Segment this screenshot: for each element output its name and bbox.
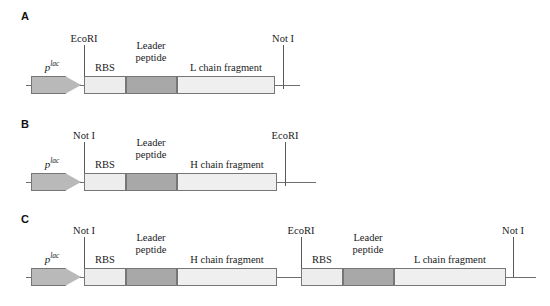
- segment-label-leader-peptide-2: Leader peptide: [353, 232, 384, 255]
- segment-label-leader-peptide: Leader peptide: [136, 137, 167, 160]
- segment-rbs: [84, 173, 126, 191]
- leader-line-1: Leader: [136, 137, 165, 148]
- promoter-arrow: [31, 268, 81, 286]
- segment-label-rbs: RBS: [95, 159, 115, 170]
- segment-rbs: [84, 76, 126, 94]
- promoter-arrow: [31, 173, 81, 191]
- restriction-site-label-noti: Not I: [272, 33, 294, 44]
- restriction-site-label-ecori: EcoRI: [272, 130, 299, 141]
- segment-h-chain-fragment: [177, 268, 277, 286]
- restriction-site-label-noti-right: Not I: [502, 225, 524, 236]
- promoter-label: plac: [45, 251, 60, 265]
- segment-leader-peptide-2: [343, 268, 394, 286]
- restriction-tick-noti-right: [513, 237, 514, 277]
- leader-line-2: peptide: [136, 149, 167, 160]
- promoter-label: plac: [45, 59, 60, 73]
- leader-line-2: peptide: [136, 244, 167, 255]
- restriction-site-label-noti: Not I: [73, 130, 95, 141]
- segment-rbs-2: [301, 268, 343, 286]
- restriction-site-label-ecori-middle: EcoRI: [288, 225, 315, 236]
- segment-leader-peptide-1: [126, 268, 177, 286]
- cassette-connector: [277, 277, 301, 278]
- restriction-tick-noti: [283, 45, 284, 89]
- segment-l-chain-fragment: [177, 76, 275, 94]
- leader-line-2: peptide: [353, 244, 384, 255]
- leader-line-2: peptide: [136, 52, 167, 63]
- segment-label-leader-peptide-1: Leader peptide: [136, 232, 167, 255]
- segment-label-h-chain-fragment: H chain fragment: [190, 159, 263, 170]
- restriction-site-label-ecori: EcoRI: [71, 33, 98, 44]
- restriction-tick-ecori: [84, 45, 85, 76]
- segment-label-l-chain-fragment: L chain fragment: [414, 254, 486, 265]
- panel-letter-c: C: [21, 213, 29, 225]
- segment-leader-peptide: [126, 76, 177, 94]
- leader-line-1: Leader: [136, 232, 165, 243]
- segment-label-rbs: RBS: [95, 62, 115, 73]
- restriction-tick-noti: [84, 142, 85, 173]
- segment-leader-peptide: [126, 173, 177, 191]
- segment-label-leader-peptide: Leader peptide: [136, 40, 167, 63]
- panel-letter-a: A: [21, 10, 29, 22]
- restriction-tick-ecori: [285, 142, 286, 186]
- panel-letter-b: B: [21, 118, 29, 130]
- segment-rbs-1: [84, 268, 126, 286]
- promoter-arrow: [31, 76, 81, 94]
- promoter-label: plac: [45, 156, 60, 170]
- segment-label-rbs-2: RBS: [312, 254, 332, 265]
- segment-label-rbs-1: RBS: [95, 254, 115, 265]
- restriction-tick-noti-left: [84, 237, 85, 268]
- leader-line-1: Leader: [136, 40, 165, 51]
- segment-h-chain-fragment: [177, 173, 277, 191]
- segment-label-l-chain-fragment: L chain fragment: [190, 62, 262, 73]
- segment-label-h-chain-fragment: H chain fragment: [190, 254, 263, 265]
- restriction-site-label-noti-left: Not I: [73, 225, 95, 236]
- segment-l-chain-fragment: [394, 268, 506, 286]
- leader-line-1: Leader: [353, 232, 382, 243]
